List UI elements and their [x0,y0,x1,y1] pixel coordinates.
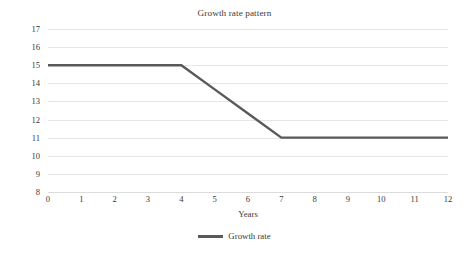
x-tick-label: 8 [303,195,327,204]
gridline [48,192,448,193]
y-tick-label: 15 [16,61,40,70]
x-tick-label: 0 [36,195,60,204]
x-tick-label: 10 [369,195,393,204]
x-tick-label: 12 [436,195,460,204]
y-tick-label: 14 [16,79,40,88]
y-tick-label: 16 [16,43,40,52]
x-tick-label: 5 [203,195,227,204]
x-tick-label: 11 [403,195,427,204]
x-tick-label: 7 [269,195,293,204]
y-tick-label: 9 [16,170,40,179]
y-tick-label: 10 [16,152,40,161]
growth-rate-line [48,65,448,137]
y-tick-label: 12 [16,116,40,125]
y-axis-tick-labels: 891011121314151617 [16,0,44,262]
chart-legend: Growth rate [0,231,469,241]
x-tick-label: 4 [169,195,193,204]
x-axis-tick-labels: 0123456789101112 [0,195,469,209]
series-growth-rate [48,29,448,192]
x-tick-label: 2 [103,195,127,204]
x-tick-label: 6 [236,195,260,204]
x-tick-label: 9 [336,195,360,204]
chart-title: Growth rate pattern [0,8,469,18]
y-tick-label: 11 [16,134,40,143]
legend-entry-label: Growth rate [228,231,270,241]
y-tick-label: 17 [16,25,40,34]
legend-line-swatch-icon [198,235,223,238]
x-tick-label: 3 [136,195,160,204]
x-axis-title: Years [48,209,448,219]
y-tick-label: 13 [16,97,40,106]
plot-area [48,29,448,192]
chart-figure: Growth rate pattern Dividend growth rate… [0,0,469,262]
x-tick-label: 1 [69,195,93,204]
